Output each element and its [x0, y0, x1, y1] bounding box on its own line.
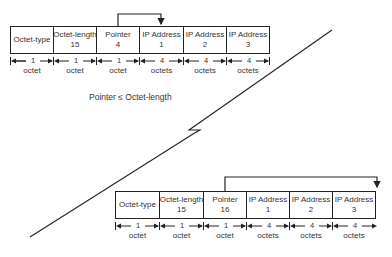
bottom-field-pointer: Pointer 16 — [203, 191, 247, 219]
field-value: 4 — [116, 40, 120, 50]
bottom-field-ip-address-1: IP Address 1 — [246, 191, 290, 219]
field-value: 2 — [309, 205, 313, 215]
size-number: 4 — [155, 56, 169, 65]
field-name: IP Address — [186, 30, 225, 40]
field-name: IP Address — [292, 195, 331, 205]
field-value: 1 — [266, 205, 270, 215]
field-value: 3 — [352, 205, 356, 215]
size-number: 4 — [199, 56, 213, 65]
top-field-octet-length: Octet-length 15 — [53, 26, 97, 54]
top-field-pointer: Pointer 4 — [96, 26, 140, 54]
size-unit: octet — [53, 66, 97, 75]
field-value: 2 — [203, 40, 207, 50]
field-value: 16 — [221, 205, 230, 215]
bottom-field-ip-address-3: IP Address 3 — [332, 191, 376, 219]
field-value: 3 — [246, 40, 250, 50]
field-name: IP Address — [335, 195, 374, 205]
size-number: 4 — [242, 56, 256, 65]
top-field-octet-type: Octet-type — [10, 26, 54, 54]
field-name: Octet-type — [14, 35, 51, 45]
size-unit: octets — [183, 66, 227, 75]
constraint-caption: Pointer ≤ Octet-length — [89, 92, 172, 102]
size-unit: octet — [96, 66, 140, 75]
bottom-field-octet-length: Octet-length 15 — [159, 191, 204, 219]
size-unit: octets — [246, 231, 290, 240]
field-name: Octet-type — [119, 200, 156, 210]
size-number: 1 — [69, 56, 83, 65]
size-unit: octet — [159, 231, 204, 240]
field-name: IP Address — [249, 195, 288, 205]
field-value: 15 — [177, 205, 186, 215]
field-value: 15 — [71, 40, 80, 50]
size-number: 4 — [262, 221, 276, 230]
bottom-pointer-arrow — [225, 177, 377, 191]
field-name: Pointer — [105, 30, 130, 40]
top-field-ip-address-1: IP Address 1 — [139, 26, 184, 54]
field-name: IP Address — [142, 30, 181, 40]
field-name: Pointer — [212, 195, 237, 205]
size-unit: octets — [289, 231, 333, 240]
size-number: 4 — [348, 221, 362, 230]
size-number: 1 — [175, 221, 189, 230]
size-unit: octets — [226, 66, 270, 75]
size-number: 1 — [112, 56, 126, 65]
size-unit: octet — [203, 231, 247, 240]
size-number: 1 — [219, 221, 233, 230]
bottom-field-octet-type: Octet-type — [115, 191, 160, 219]
top-pointer-arrow — [118, 14, 161, 26]
size-number: 1 — [26, 56, 40, 65]
size-number: 1 — [131, 221, 145, 230]
field-name: Octet-length — [53, 30, 97, 40]
field-value: 1 — [159, 40, 163, 50]
size-unit: octet — [10, 66, 54, 75]
top-field-ip-address-2: IP Address 2 — [183, 26, 227, 54]
size-unit: octet — [115, 231, 160, 240]
field-name: Octet-length — [160, 195, 204, 205]
size-unit: octets — [332, 231, 376, 240]
size-number: 4 — [305, 221, 319, 230]
field-name: IP Address — [229, 30, 268, 40]
top-field-ip-address-3: IP Address 3 — [226, 26, 270, 54]
bottom-field-ip-address-2: IP Address 2 — [289, 191, 333, 219]
size-unit: octets — [139, 66, 184, 75]
